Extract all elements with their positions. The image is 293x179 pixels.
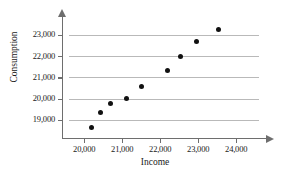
y-axis-tick [58,35,63,36]
gridline [69,77,259,78]
x-axis-tick [236,138,237,143]
x-axis-tick-label: 22,000 [149,145,171,154]
x-axis-title: Income [95,157,215,167]
gridline [69,99,259,100]
y-axis-tick [58,77,63,78]
x-axis-tick [84,138,85,143]
data-point [89,125,94,130]
plot-area [69,22,259,137]
gridline [69,120,259,121]
x-axis-tick-label: 24,000 [225,145,247,154]
data-point [124,96,129,101]
data-point [178,54,183,59]
x-axis-tick-label: 23,000 [187,145,209,154]
gridline [69,56,259,57]
y-axis-tick-label: 22,000 [33,52,55,61]
scatter-plot: 19,00020,00021,00022,00023,000 20,00021,… [0,0,293,179]
data-point [165,68,170,73]
x-axis-tick [160,138,161,143]
gridline [69,35,259,36]
data-point [216,27,221,32]
y-axis-tick [58,99,63,100]
x-axis-tick-label: 20,000 [73,145,95,154]
y-axis-tick [58,120,63,121]
y-axis-tick-label: 20,000 [33,94,55,103]
y-axis-tick-label: 23,000 [33,30,55,39]
data-point [98,110,103,115]
x-axis-tick [122,138,123,143]
data-point [139,84,144,89]
x-axis-arrow-icon [266,135,274,143]
data-point [108,101,113,106]
x-axis-tick-label: 21,000 [111,145,133,154]
y-axis-tick [58,56,63,57]
x-axis-line [62,138,269,139]
y-axis-arrow-icon [58,9,66,17]
y-axis-tick-label: 21,000 [33,73,55,82]
y-axis-tick-label: 19,000 [33,115,55,124]
y-axis-title: Consumption [9,14,19,100]
x-axis-tick [198,138,199,143]
data-point [194,39,199,44]
